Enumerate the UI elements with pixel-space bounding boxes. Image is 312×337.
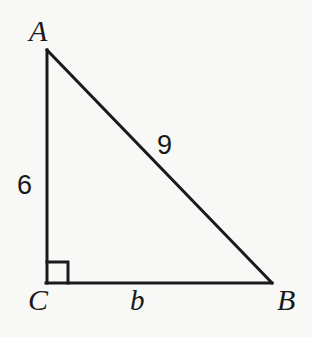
- vertex-label-a: A: [29, 16, 47, 46]
- side-length-label-ab: 9: [157, 132, 172, 159]
- side-hypotenuse-ab-line: [47, 50, 272, 283]
- vertex-label-c: C: [28, 285, 48, 315]
- right-angle-marker-icon: [47, 262, 68, 283]
- side-length-label-cb: b: [130, 286, 145, 315]
- vertex-label-b: B: [277, 285, 295, 315]
- side-length-label-ac: 6: [17, 172, 32, 199]
- triangle-figure: A B C 6 9 b: [0, 0, 312, 337]
